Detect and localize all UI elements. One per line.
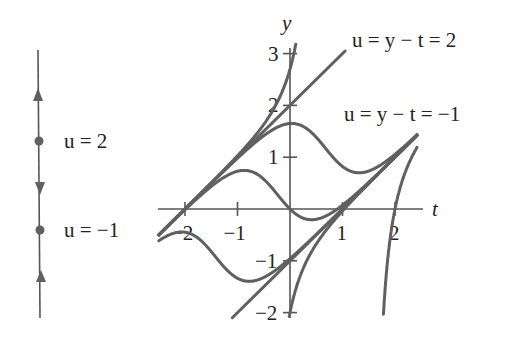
annotation-line-upper: u = y − t = 2 xyxy=(352,28,456,52)
y-tick-label: −2 xyxy=(255,301,277,325)
solution-curve xyxy=(159,135,417,235)
annotation-line-lower: u = y − t = −1 xyxy=(344,102,460,126)
arrow-up-icon xyxy=(36,270,46,282)
equilibrium-dot-u2 xyxy=(35,137,44,146)
curves xyxy=(159,44,417,318)
x-tick-label: 1 xyxy=(337,221,348,245)
equilibrium-label-u-neg1: u = −1 xyxy=(64,218,119,242)
y-axis-label: y xyxy=(280,11,292,35)
arrow-down-icon xyxy=(35,182,45,195)
phase-line: u = 2 u = −1 xyxy=(33,50,119,318)
y-tick-label: 1 xyxy=(268,145,279,169)
y-tick-label: −1 xyxy=(255,249,277,273)
x-tick-label: −1 xyxy=(224,221,246,245)
t-axis-label: t xyxy=(432,197,439,221)
solution-curve xyxy=(159,124,417,235)
arrow-up-icon xyxy=(33,88,43,101)
y-tick-label: 3 xyxy=(268,42,279,66)
diagram: u = 2 u = −1 t y −2−112321−1−2 u = y − t… xyxy=(0,0,530,339)
equilibrium-dot-u-neg1 xyxy=(36,226,45,235)
equilibrium-label-u2: u = 2 xyxy=(64,129,107,153)
solution-curve xyxy=(159,44,296,235)
